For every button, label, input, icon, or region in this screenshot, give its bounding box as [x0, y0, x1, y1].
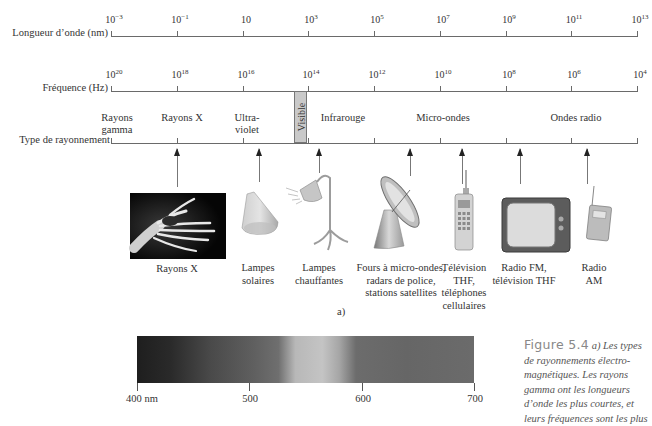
axis-tick: [506, 31, 507, 37]
figure-caption-line: a) Les types: [592, 340, 642, 351]
axis-tick: [177, 138, 178, 144]
satellite-dish-icon: [370, 170, 430, 250]
axis-tick-label: 1013: [632, 14, 649, 25]
axis-tick-label: 105: [370, 14, 384, 25]
example-caption-microwave: Fours à micro-ondes,radars de police,sta…: [357, 262, 446, 300]
arrow-up-icon: [259, 149, 260, 182]
figure-caption-line: de rayonnements électro-: [524, 354, 652, 369]
spectrum-tick: [249, 383, 250, 391]
example-caption-am-radio: RadioAM: [581, 262, 606, 287]
arrow-up-icon: [520, 149, 521, 184]
axis-tick-label: 1016: [238, 69, 255, 80]
axis-tick: [243, 31, 244, 37]
axis-tick-label: 1020: [106, 69, 123, 80]
type-label-xray: Rayons X: [161, 112, 203, 124]
type-label-microwave: Micro-ondes: [416, 112, 470, 124]
type-label-gamma: Rayonsgamma: [101, 112, 133, 136]
visible-band-label: Visible: [295, 103, 306, 131]
spectrum-label-500: 500: [242, 393, 258, 404]
axis-tick: [440, 31, 441, 37]
axis-tick: [637, 138, 638, 144]
spectrum-label-400: 400 nm: [126, 393, 158, 404]
spectrum-label-600: 600: [355, 393, 371, 404]
axis-tick: [243, 138, 244, 144]
heat-lamp-icon: [284, 174, 356, 254]
axis-tick: [440, 86, 441, 92]
spectrum-tick: [362, 383, 363, 391]
axis-tick-label: 109: [502, 14, 516, 25]
axis-tick: [111, 86, 112, 92]
example-caption-fm-tv: Radio FM,télévision THF: [492, 262, 555, 287]
axis-tick: [374, 31, 375, 37]
television-icon: [501, 197, 571, 253]
axis-tick-label: 108: [502, 69, 516, 80]
axis-tick: [243, 86, 244, 92]
arrow-up-icon: [177, 149, 178, 187]
axis-tick: [374, 86, 375, 92]
axis-tick: [637, 86, 638, 92]
axis-tick: [374, 138, 375, 144]
axis-tick-label: 10−3: [105, 14, 122, 25]
type-label-radio: Ondes radio: [550, 112, 601, 124]
sun-lamp-icon: [240, 190, 284, 238]
figure-caption-line: d’onde les plus courtes, et: [524, 397, 652, 412]
axis-tick: [506, 86, 507, 92]
figure-caption-line: leurs fréquences sont les plus: [524, 412, 652, 426]
type-label-infrared: Infrarouge: [321, 112, 365, 124]
axis-tick: [571, 31, 572, 37]
axis-tick: [177, 86, 178, 92]
visible-band: Visible: [294, 91, 307, 143]
cell-phone-icon: [452, 170, 476, 252]
am-radio-icon: [584, 186, 614, 242]
axis-tick-label: 1011: [566, 14, 583, 25]
wavelength-axis-label: Longueur d’onde (nm): [0, 27, 108, 38]
spectrum-tick: [474, 383, 475, 391]
example-caption-sun-lamp: Lampessolaires: [241, 262, 274, 287]
axis-tick: [111, 138, 112, 144]
frequency-axis-label: Fréquence (Hz): [0, 82, 108, 93]
axis-tick-label: 103: [304, 14, 318, 25]
spectrum-tick: [137, 383, 138, 391]
axis-tick: [111, 31, 112, 37]
spectrum-label-700: 700: [467, 393, 483, 404]
figure-caption-line: magnétiques. Les rayons: [524, 368, 652, 383]
arrow-up-icon: [587, 149, 588, 184]
xray-hand-icon: [130, 193, 226, 259]
axis-tick-label: 1012: [369, 69, 386, 80]
visible-spectrum-bar: [137, 336, 474, 383]
axis-tick: [506, 138, 507, 144]
axis-tick: [308, 31, 309, 37]
type-label-ultraviolet: Ultra-violet: [234, 112, 259, 136]
arrow-up-icon: [319, 149, 320, 173]
axis-tick-label: 10: [241, 14, 251, 25]
axis-tick: [308, 138, 309, 144]
axis-tick: [571, 138, 572, 144]
axis-tick: [177, 31, 178, 37]
axis-tick: [308, 86, 309, 92]
figure-caption-line: gamma ont les longueurs: [524, 383, 652, 398]
axis-tick-label: 10−1: [171, 14, 188, 25]
axis-tick-label: 1018: [172, 69, 189, 80]
axis-tick-label: 1014: [303, 69, 320, 80]
figure-title: Figure 5.4: [524, 337, 589, 352]
example-caption-xray: Rayons X: [156, 263, 198, 276]
axis-tick-label: 106: [567, 69, 581, 80]
example-caption-cell-phone: TélévisionTHF,téléphonescellulaires: [442, 262, 487, 312]
example-caption-heat-lamp: Lampeschauffantes: [295, 262, 343, 287]
axis-tick-label: 1010: [435, 69, 452, 80]
part-label: a): [337, 306, 345, 317]
axis-tick-label: 107: [436, 14, 450, 25]
axis-tick: [637, 31, 638, 37]
figure-caption: Figure 5.4 a) Les types de rayonnements …: [524, 338, 652, 426]
radiation-type-axis-label: Type de rayonnement: [0, 134, 110, 145]
axis-tick: [571, 86, 572, 92]
axis-tick-label: 104: [633, 69, 647, 80]
axis-tick: [440, 138, 441, 144]
